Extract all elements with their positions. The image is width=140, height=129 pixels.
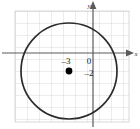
center-x-coordinate-label: –3 — [61, 56, 72, 66]
circle-graph-figure: x y –3 0 –2 — [0, 0, 140, 129]
x-axis-arrowhead — [126, 50, 134, 57]
origin-label: 0 — [87, 56, 92, 66]
graph-canvas: x y –3 0 –2 — [0, 0, 140, 129]
center-point-marker — [66, 68, 73, 75]
y-axis-arrowhead — [90, 1, 97, 9]
center-y-coordinate-label: –2 — [84, 68, 94, 78]
x-axis-label: x — [133, 50, 138, 58]
grid-background — [15, 11, 129, 122]
